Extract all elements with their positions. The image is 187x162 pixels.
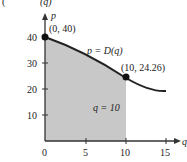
x-tick-5: 5 [83, 147, 88, 158]
x-axis-arrow-icon [174, 138, 181, 144]
y-tick-40: 40 [27, 32, 37, 43]
x-axis-label: q [182, 136, 187, 147]
y-tick-20: 20 [27, 84, 37, 95]
y-axis-label: p [50, 10, 56, 21]
point-label-10-24: (10, 24.26) [121, 62, 165, 74]
x-tick-0: 0 [42, 147, 47, 158]
x-tick-15: 15 [160, 147, 170, 158]
clipped-top-text-2: (q) [40, 0, 52, 8]
y-tick-30: 30 [27, 58, 37, 69]
x-tick-10: 10 [120, 147, 130, 158]
region-label: q = 10 [93, 102, 120, 113]
y-axis-arrow-icon [42, 13, 48, 20]
point-10-24 [123, 74, 130, 81]
point-0-40 [42, 34, 49, 41]
clipped-top-text: ( [2, 0, 6, 8]
chart: ( (q) p q 40 30 20 10 0 5 10 15 (0, 40) … [0, 0, 187, 162]
y-tick-10: 10 [27, 110, 37, 121]
curve-label: p = D(q) [86, 45, 123, 57]
point-label-0-40: (0, 40) [49, 23, 76, 35]
